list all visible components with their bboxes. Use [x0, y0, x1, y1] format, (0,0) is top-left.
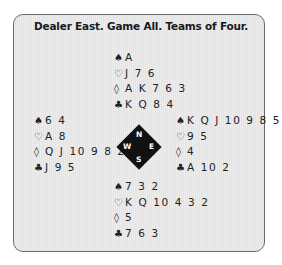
- compass-west-label: W: [123, 142, 131, 151]
- club-icon: ♣: [176, 160, 187, 176]
- west-hand: ♠6 4 ♡A 8 ◊Q J 10 9 8 2 ♣J 9 5: [34, 113, 126, 176]
- heart-icon: ♡: [114, 195, 125, 211]
- heart-icon: ♡: [176, 129, 187, 145]
- east-hearts: ♡9 5: [176, 129, 281, 145]
- west-hearts: ♡A 8: [34, 129, 126, 145]
- diamond-icon: ◊: [176, 144, 187, 160]
- diamond-icon: ◊: [114, 210, 125, 226]
- compass-east-label: E: [149, 142, 154, 151]
- south-clubs: ♣7 6 3: [114, 226, 209, 242]
- club-icon: ♣: [114, 97, 125, 113]
- compass-rose: N W E S: [117, 125, 161, 169]
- north-hearts: ♡J 7 6: [114, 66, 187, 82]
- club-icon: ♣: [34, 160, 45, 176]
- deal-title: Dealer East. Game All. Teams of Four.: [0, 20, 282, 32]
- spade-icon: ♠: [114, 179, 125, 195]
- north-spades: ♠A: [114, 50, 187, 66]
- diamond-icon: ◊: [34, 144, 45, 160]
- west-diamonds: ◊Q J 10 9 8 2: [34, 144, 126, 160]
- west-clubs: ♣J 9 5: [34, 160, 126, 176]
- spade-icon: ♠: [34, 113, 45, 129]
- east-clubs: ♣A 10 2: [176, 160, 281, 176]
- diamond-icon: ◊: [114, 81, 125, 97]
- east-hand: ♠K Q J 10 9 8 5 ♡9 5 ◊4 ♣A 10 2: [176, 113, 281, 176]
- spade-icon: ♠: [114, 50, 125, 66]
- south-diamonds: ◊5: [114, 210, 209, 226]
- east-spades: ♠K Q J 10 9 8 5: [176, 113, 281, 129]
- south-hand: ♠7 3 2 ♡K Q 10 4 3 2 ◊5 ♣7 6 3: [114, 179, 209, 242]
- south-spades: ♠7 3 2: [114, 179, 209, 195]
- spade-icon: ♠: [176, 113, 187, 129]
- east-diamonds: ◊4: [176, 144, 281, 160]
- club-icon: ♣: [114, 226, 125, 242]
- north-hand: ♠A ♡J 7 6 ◊A K 7 6 3 ♣K Q 8 4: [114, 50, 187, 113]
- heart-icon: ♡: [34, 129, 45, 145]
- west-spades: ♠6 4: [34, 113, 126, 129]
- north-diamonds: ◊A K 7 6 3: [114, 81, 187, 97]
- south-hearts: ♡K Q 10 4 3 2: [114, 195, 209, 211]
- heart-icon: ♡: [114, 66, 125, 82]
- north-clubs: ♣K Q 8 4: [114, 97, 187, 113]
- compass-south-label: S: [136, 155, 141, 164]
- compass-north-label: N: [136, 130, 142, 139]
